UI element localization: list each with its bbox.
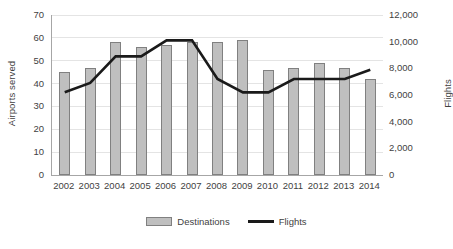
bar [237, 40, 248, 175]
bar [339, 68, 350, 175]
legend-item-flights: Flights [248, 216, 307, 227]
y-axis-right-title: Flights [442, 49, 453, 139]
y-axis-left-tick-label: 20 [8, 124, 44, 134]
bar [314, 63, 325, 175]
y-axis-left-tick-label: 30 [8, 101, 44, 111]
bar [85, 68, 96, 175]
y-axis-right-tick-label: 6,000 [389, 90, 441, 100]
bar [212, 42, 223, 175]
y-axis-right-tick-label: 12,000 [389, 10, 441, 20]
line-swatch-icon [248, 220, 274, 223]
bar-swatch-icon [146, 217, 172, 226]
y-axis-right-tick-label: 0 [389, 170, 441, 180]
chart-legend: Destinations Flights [0, 216, 453, 227]
bar-series-destinations [52, 15, 383, 175]
bar [136, 47, 147, 175]
bar [187, 42, 198, 175]
bar [110, 42, 121, 175]
x-axis-tick-label: 2014 [353, 181, 385, 191]
legend-label-destinations: Destinations [177, 216, 229, 227]
y-axis-left-tick-label: 10 [8, 147, 44, 157]
bar [365, 79, 376, 175]
bar [59, 72, 70, 175]
y-axis-right-tick-label: 4,000 [389, 117, 441, 127]
bar [263, 70, 274, 175]
y-axis-left-tick-label: 40 [8, 79, 44, 89]
y-axis-right-tick-label: 2,000 [389, 143, 441, 153]
y-axis-left-tick-label: 0 [8, 170, 44, 180]
legend-label-flights: Flights [279, 216, 307, 227]
bar [288, 68, 299, 175]
y-axis-left-tick-label: 60 [8, 33, 44, 43]
y-axis-right-tick-label: 10,000 [389, 37, 441, 47]
legend-item-destinations: Destinations [146, 216, 229, 227]
y-axis-right-tick-label: 8,000 [389, 63, 441, 73]
bar [161, 45, 172, 175]
chart-container: Airports served Flights 010203040506070 … [0, 0, 453, 249]
y-axis-left-tick-label: 70 [8, 10, 44, 20]
y-axis-left-tick-label: 50 [8, 56, 44, 66]
plot-area [51, 15, 383, 176]
